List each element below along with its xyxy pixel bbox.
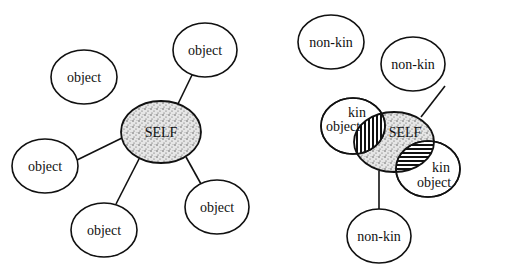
svg-text:object: object [326,119,360,134]
diagram-canvas: object object object object object SELF … [0,0,514,268]
svg-text:object: object [67,70,101,85]
svg-text:object: object [417,175,451,190]
svg-text:non-kin: non-kin [357,229,401,244]
svg-text:kin: kin [348,105,366,120]
svg-text:kin: kin [432,160,450,175]
svg-text:object: object [28,159,62,174]
object-node-left: object [12,139,78,193]
object-node-top-right: object [173,23,237,77]
svg-text:object: object [200,200,234,215]
svg-text:object: object [188,43,222,58]
self-node-left: SELF [121,101,201,163]
object-node-bottom: object [71,203,137,257]
svg-text:object: object [87,223,121,238]
object-node-top-left: object [51,50,117,104]
svg-text:non-kin: non-kin [309,35,353,50]
left-diagram: object object object object object SELF [12,23,249,257]
svg-text:non-kin: non-kin [391,57,435,72]
edge-self-object-bottom [116,159,139,204]
edge-self-object-bottom-right [186,157,201,184]
right-diagram: non-kin non-kin non-kin SELF kin object [298,15,460,263]
edge-self-nonkin-top-right [421,86,445,117]
edge-self-object-left [77,138,122,160]
object-node-bottom-right: object [185,180,249,234]
nonkin-node-top-right: non-kin [381,37,445,91]
nonkin-node-top-left: non-kin [298,15,364,69]
svg-text:SELF: SELF [145,125,178,140]
nonkin-node-bottom: non-kin [347,209,411,263]
self-label-right: SELF [389,125,422,140]
edge-self-object-top-right [177,75,192,106]
